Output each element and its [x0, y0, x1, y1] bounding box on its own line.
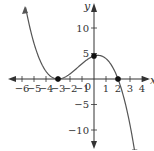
curve-end-arrow-icon	[22, 6, 28, 14]
y-tick-label: −5	[74, 99, 89, 110]
marked-point	[55, 76, 61, 82]
x-tick-label: 4	[139, 83, 145, 94]
y-tick-label: 10	[76, 23, 89, 34]
marked-point	[91, 53, 97, 59]
x-tick-label: 1	[103, 83, 109, 94]
y-tick-label: 5	[83, 48, 89, 59]
y-axis-down-arrow-icon	[91, 141, 97, 149]
y-axis-label: y	[83, 0, 91, 13]
x-axis-left-arrow-icon	[8, 76, 16, 82]
origin-label: 0	[85, 81, 91, 92]
marked-point	[115, 76, 121, 82]
x-axis-right-arrow-icon	[142, 76, 150, 82]
y-axis-up-arrow-icon	[91, 3, 97, 12]
y-tick-label: −10	[68, 125, 89, 136]
x-tick-label: 3	[127, 83, 133, 94]
function-graph: x y −6−5−4−3−2−112340 105−5−10	[0, 0, 154, 150]
curve-end-arrow-icon	[132, 150, 138, 151]
x-axis-label: x	[150, 74, 154, 87]
